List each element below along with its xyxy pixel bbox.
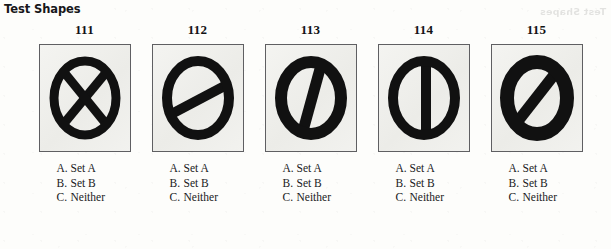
shape-item-111: 111 A. Set A B. [28,22,141,205]
page-showthrough-watermark: Test Shapes [540,6,606,17]
option-c-key: C. [283,190,297,205]
option-a-key: A. [396,161,410,176]
circle-ring-with-45-degree-diagonal-bar-icon [499,52,575,144]
shape-item-113: 113 A. Set A B. Set B [254,22,367,205]
shape-item-112: 112 A. Set A B. Set B [141,22,254,205]
option-a-label: Set A [523,161,548,176]
option-b-key: B. [57,176,71,191]
shape-number-label: 115 [527,22,547,38]
shape-panel[interactable] [491,44,583,152]
option-a-label: Set A [71,161,96,176]
answer-options: A. Set A B. Set B C. Neither [39,161,131,205]
shape-panel[interactable] [39,44,131,152]
option-b-key: B. [396,176,410,191]
answer-options: A. Set A B. Set B C. Neither [491,161,583,205]
option-c-key: C. [170,190,184,205]
option-b[interactable]: B. Set B [57,176,96,191]
option-c-label: Neither [297,190,331,205]
option-a[interactable]: A. Set A [396,161,435,176]
option-a-key: A. [509,161,523,176]
option-b-label: Set B [71,176,96,191]
shape-number-label: 112 [188,22,208,38]
option-a-label: Set A [184,161,209,176]
option-b-label: Set B [184,176,209,191]
shape-number-label: 113 [301,22,321,38]
option-a[interactable]: A. Set A [170,161,209,176]
option-c-label: Neither [184,190,218,205]
option-a-key: A. [170,161,184,176]
shape-item-114: 114 A. Set A B. Set B [367,22,480,205]
circle-ring-with-vertical-bar-icon [386,52,462,144]
option-c[interactable]: C. Neither [170,190,218,205]
option-a-label: Set A [297,161,322,176]
option-c[interactable]: C. Neither [509,190,557,205]
option-b-key: B. [509,176,523,191]
answer-options: A. Set A B. Set B C. Neither [152,161,244,205]
option-c-key: C. [509,190,523,205]
shape-panel[interactable] [152,44,244,152]
shape-number-label: 114 [414,22,434,38]
shape-number-label: 111 [75,22,94,38]
option-c-key: C. [57,190,71,205]
option-a-key: A. [57,161,71,176]
circle-ring-with-x-cross-icon [47,52,123,144]
option-b-key: B. [170,176,184,191]
option-c[interactable]: C. Neither [283,190,331,205]
circle-ring-with-shallow-diagonal-bar-icon [160,52,236,144]
option-c-label: Neither [523,190,557,205]
answer-options: A. Set A B. Set B C. Neither [265,161,357,205]
test-shapes-row: 111 A. Set A B. [0,22,611,205]
option-b-key: B. [283,176,297,191]
shape-panel[interactable] [265,44,357,152]
option-a[interactable]: A. Set A [509,161,548,176]
option-b[interactable]: B. Set B [170,176,209,191]
page-title: Test Shapes [4,2,80,16]
option-a[interactable]: A. Set A [57,161,96,176]
option-b[interactable]: B. Set B [509,176,548,191]
option-c[interactable]: C. Neither [57,190,105,205]
option-a[interactable]: A. Set A [283,161,322,176]
option-b[interactable]: B. Set B [396,176,435,191]
option-c-key: C. [396,190,410,205]
option-b-label: Set B [523,176,548,191]
option-b[interactable]: B. Set B [283,176,322,191]
option-b-label: Set B [297,176,322,191]
shape-item-115: 115 A. Set A B. Set B [480,22,593,205]
option-c[interactable]: C. Neither [396,190,444,205]
shape-panel[interactable] [378,44,470,152]
option-a-label: Set A [410,161,435,176]
option-c-label: Neither [71,190,105,205]
option-b-label: Set B [410,176,435,191]
circle-ring-with-steep-diagonal-bar-icon [273,52,349,144]
answer-options: A. Set A B. Set B C. Neither [378,161,470,205]
option-a-key: A. [283,161,297,176]
option-c-label: Neither [410,190,444,205]
